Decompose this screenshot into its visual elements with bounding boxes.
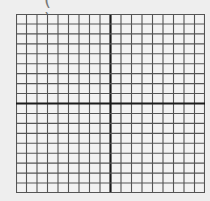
coordinate-grid	[16, 14, 205, 193]
figure-label-fragment: ( )	[44, 0, 68, 10]
grid-svg	[16, 14, 205, 193]
